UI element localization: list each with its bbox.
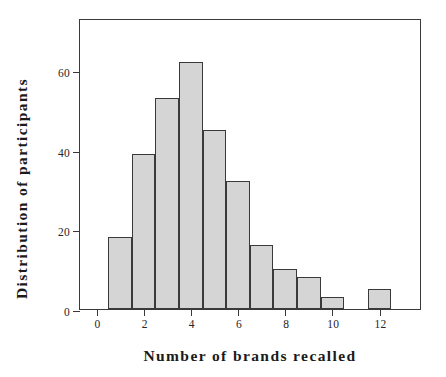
- bar: [132, 154, 156, 309]
- bar: [155, 98, 179, 309]
- x-axis-title: Number of brands recalled: [79, 347, 421, 365]
- y-axis-title: Distribution of participants: [0, 0, 44, 377]
- y-axis-tick: 0: [73, 311, 80, 312]
- x-axis-tick: 6: [238, 309, 239, 316]
- x-axis-tick: 8: [285, 309, 286, 316]
- bar: [203, 130, 227, 309]
- x-axis-tick-label: 0: [94, 318, 100, 330]
- x-axis-tick: 0: [97, 309, 98, 316]
- bar: [321, 297, 345, 309]
- y-axis-tick-label: 20: [58, 226, 70, 238]
- bar-series: [80, 20, 420, 309]
- x-axis-tick-label: 8: [283, 318, 289, 330]
- bar: [179, 62, 203, 309]
- bar: [273, 269, 297, 309]
- x-axis-tick: 12: [380, 309, 381, 316]
- plot-area: 0204060024681012: [79, 19, 421, 310]
- y-axis-tick-label: 40: [58, 147, 70, 159]
- histogram-figure: Distribution of participants 02040600246…: [0, 0, 446, 377]
- x-axis-tick-label: 2: [142, 318, 148, 330]
- y-axis-tick: 60: [73, 72, 80, 73]
- x-axis-tick-label: 10: [327, 318, 339, 330]
- bar: [226, 181, 250, 309]
- y-axis-tick-label: 60: [58, 67, 70, 79]
- x-axis-tick-label: 4: [189, 318, 195, 330]
- y-axis-tick: 20: [73, 231, 80, 232]
- y-axis-tick-label: 0: [64, 306, 70, 318]
- bar: [368, 289, 392, 309]
- bar: [108, 237, 132, 309]
- bar: [250, 245, 274, 309]
- x-axis-tick-label: 6: [236, 318, 242, 330]
- x-axis-tick-label: 12: [374, 318, 386, 330]
- x-axis-tick: 4: [191, 309, 192, 316]
- bar: [297, 277, 321, 309]
- x-axis-tick: 10: [332, 309, 333, 316]
- y-axis-tick: 40: [73, 152, 80, 153]
- x-axis-tick: 2: [144, 309, 145, 316]
